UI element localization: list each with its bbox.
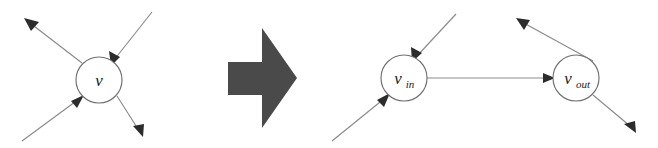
node-v-out-subscript: out: [576, 78, 591, 90]
node-v-in-label: v: [394, 69, 402, 88]
diagram-svg: v: [0, 0, 658, 148]
arrowhead-icon: [24, 18, 39, 31]
edge-incoming-from-upper-right: [109, 12, 152, 66]
edge-line: [117, 96, 138, 129]
transformation-arrow-icon: [228, 28, 297, 128]
arrowhead-icon: [133, 124, 144, 137]
edge-line: [114, 12, 152, 60]
edge-outgoing-to-lower-right: [117, 96, 144, 137]
edge-incoming-to-vin-upper-right: [411, 14, 456, 62]
edge-line: [417, 14, 456, 56]
edge-vin-to-vout: [427, 73, 555, 83]
edge-outgoing-vout-upper-right: [516, 18, 593, 61]
edge-line: [593, 95, 630, 126]
node-v-in[interactable]: [381, 55, 427, 101]
edge-outgoing-to-upper-left: [24, 18, 82, 63]
edge-outgoing-vout-lower-right: [593, 95, 636, 133]
node-v-in-subscript: in: [406, 78, 415, 90]
arrowhead-icon: [71, 95, 84, 108]
edge-line: [522, 22, 593, 61]
node-v-label: v: [95, 71, 103, 90]
edge-incoming-to-vin-lower-left: [332, 93, 390, 141]
figure-canvas: v: [0, 0, 658, 148]
right-graph-group: v in v out: [332, 14, 636, 141]
edge-line: [332, 98, 385, 141]
edge-line: [22, 99, 79, 141]
edge-line: [30, 23, 82, 63]
left-graph-group: v: [22, 12, 152, 141]
edge-incoming-from-lower-left: [22, 95, 84, 141]
node-v-out-label: v: [564, 69, 572, 88]
arrowhead-icon: [516, 18, 530, 30]
